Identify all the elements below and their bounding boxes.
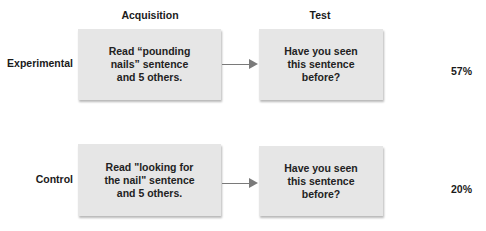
control-acquisition-text: Read "looking for the nail" sentence and… — [104, 161, 194, 200]
control-arrow-head-icon — [249, 178, 258, 188]
column-header-test: Test — [270, 9, 370, 21]
control-arrow — [222, 183, 250, 184]
control-test-text: Have you seen this sentence before? — [284, 162, 358, 201]
control-acquisition-box: Read "looking for the nail" sentence and… — [78, 144, 221, 216]
control-result: 20% — [451, 183, 472, 195]
row-label-experimental: Experimental — [0, 57, 73, 69]
experimental-test-text: Have you seen this sentence before? — [284, 45, 358, 84]
experimental-arrow — [222, 64, 250, 65]
experimental-acquisition-text: Read “pounding nails” sentence and 5 oth… — [109, 45, 191, 84]
experimental-test-box: Have you seen this sentence before? — [259, 29, 383, 100]
column-header-acquisition: Acquisition — [100, 9, 200, 21]
experimental-acquisition-box: Read “pounding nails” sentence and 5 oth… — [78, 29, 221, 100]
row-label-control: Control — [0, 173, 73, 185]
experimental-result: 57% — [451, 65, 472, 77]
control-test-box: Have you seen this sentence before? — [259, 146, 383, 216]
experimental-arrow-head-icon — [249, 59, 258, 69]
